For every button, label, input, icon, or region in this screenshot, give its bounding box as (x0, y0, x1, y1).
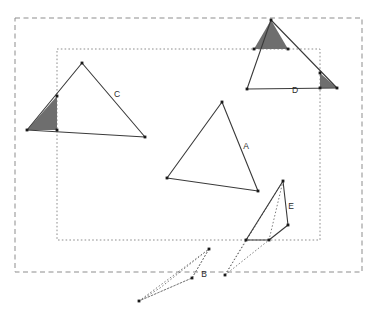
outer-clip-window (15, 18, 362, 272)
vertex-marker[interactable] (246, 88, 249, 91)
vertex-marker[interactable] (336, 87, 339, 90)
vertex-marker[interactable] (287, 224, 290, 227)
vertex-marker[interactable] (253, 48, 256, 51)
shape-outlines-group (27, 20, 337, 301)
vertex-marker[interactable] (144, 136, 147, 139)
vertex-marker[interactable] (138, 300, 141, 303)
clip-windows-group (15, 18, 362, 272)
shape-labels-group: ACDEB (114, 85, 298, 279)
shaded-region-d-0 (254, 20, 288, 49)
vertex-marker[interactable] (319, 72, 322, 75)
vertex-marker[interactable] (245, 239, 248, 242)
vertex-marker[interactable] (221, 101, 224, 104)
vertex-marker[interactable] (208, 248, 211, 251)
vertex-marker[interactable] (270, 19, 273, 22)
shape-label-d: D (292, 85, 298, 95)
vertex-marker[interactable] (166, 177, 169, 180)
diagram-canvas: ACDEB (0, 0, 375, 312)
shaded-regions-group (27, 20, 337, 130)
inner-clip-window (57, 49, 320, 240)
shape-label-e: E (288, 201, 294, 211)
dotted-connectors-group (139, 181, 283, 301)
vertex-marker[interactable] (56, 95, 59, 98)
vertex-marker[interactable] (282, 180, 285, 183)
dotted-connector-4 (225, 240, 269, 275)
vertex-marker[interactable] (224, 274, 227, 277)
vertex-marker[interactable] (56, 129, 59, 132)
shape-label-c: C (114, 89, 120, 99)
vertex-marker[interactable] (268, 239, 271, 242)
dotted-connector-3 (225, 240, 246, 275)
vertex-marker[interactable] (319, 87, 322, 90)
vertex-marker[interactable] (257, 190, 260, 193)
shape-label-a: A (243, 141, 249, 151)
vertex-marker[interactable] (81, 62, 84, 65)
vertex-marker[interactable] (26, 129, 29, 132)
vertex-markers-group (26, 19, 339, 303)
diagram-svg: ACDEB (0, 0, 375, 312)
vertex-marker[interactable] (191, 277, 194, 280)
vertex-marker[interactable] (287, 48, 290, 51)
shape-outline-b[interactable] (139, 249, 209, 301)
shape-label-b: B (201, 269, 207, 279)
